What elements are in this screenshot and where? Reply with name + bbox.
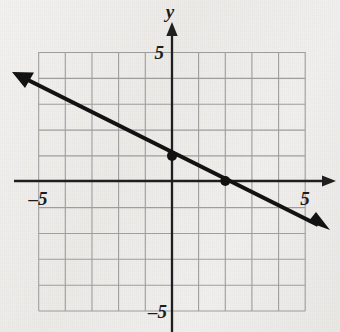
x-tick-label-positive-5: 5 [300, 188, 310, 209]
point-y-intercept [167, 151, 177, 161]
point-x-intercept [220, 176, 230, 186]
axes [14, 30, 326, 332]
coordinate-plane-svg: y 5 –5 –5 5 [0, 0, 340, 332]
y-axis-arrowhead [166, 22, 177, 36]
line-arrowhead-right [308, 212, 330, 230]
graph-figure: y 5 –5 –5 5 [0, 0, 340, 332]
y-axis-label: y [164, 1, 175, 22]
y-tick-label-negative-5: –5 [147, 301, 168, 322]
x-axis-arrowhead [322, 176, 336, 187]
plotted-line [22, 77, 318, 225]
x-tick-label-negative-5: –5 [28, 188, 49, 209]
y-tick-label-positive-5: 5 [155, 42, 165, 63]
